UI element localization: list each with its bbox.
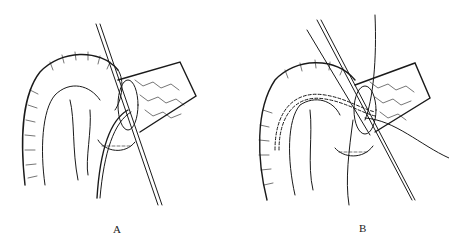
figure-panel-a: A: [0, 0, 225, 248]
panel-label-b: B: [359, 222, 366, 234]
surgical-illustration-b: [225, 0, 449, 248]
surgical-illustration-a: [0, 0, 225, 248]
figure-panel-b: B: [225, 0, 449, 248]
panel-label-a: A: [113, 223, 121, 235]
